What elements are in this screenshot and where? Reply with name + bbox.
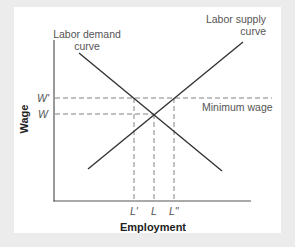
l-double-prime-tick-label: L"	[169, 205, 179, 217]
demand-label-line1: Labor demand	[52, 28, 122, 40]
minimum-wage-label: Minimum wage	[202, 101, 273, 113]
w-prime-tick-label: W'	[37, 92, 49, 104]
labor-market-diagram	[0, 0, 295, 247]
l-prime-tick-label: L'	[130, 205, 138, 217]
demand-curve-label: Labor demand curve	[52, 28, 122, 52]
x-axis-title: Employment	[120, 221, 186, 233]
l-tick-label: L	[151, 205, 157, 217]
labor-demand-curve	[79, 53, 222, 171]
supply-curve-label: Labor supply curve	[200, 13, 266, 37]
w-tick-label: W	[38, 108, 48, 120]
y-axis-title: Wage	[18, 105, 30, 134]
supply-label-line1: Labor supply	[200, 13, 266, 25]
demand-label-line2: curve	[52, 40, 122, 52]
supply-label-line2: curve	[200, 25, 266, 37]
